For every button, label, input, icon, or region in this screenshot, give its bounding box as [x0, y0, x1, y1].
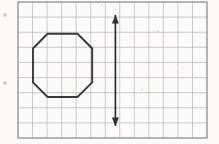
octagon-symmetry-figure [0, 0, 219, 144]
scan-speckle [101, 4, 102, 5]
scan-speckle [182, 67, 183, 68]
figure-canvas: Octagon with vertical line of symmetry o… [0, 0, 219, 144]
scan-speckle [141, 89, 142, 90]
scan-speckle [4, 82, 7, 85]
scan-speckle [157, 31, 158, 32]
scan-speckle [4, 14, 7, 17]
